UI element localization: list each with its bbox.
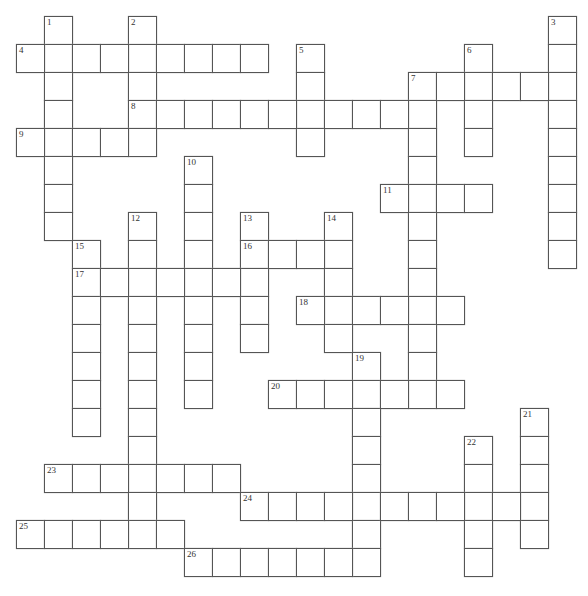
crossword-cell[interactable] bbox=[44, 44, 73, 73]
crossword-cell[interactable] bbox=[408, 128, 437, 157]
crossword-cell[interactable] bbox=[408, 296, 437, 325]
crossword-cell[interactable] bbox=[128, 44, 157, 73]
crossword-cell[interactable] bbox=[184, 464, 213, 493]
crossword-cell[interactable] bbox=[268, 492, 297, 521]
crossword-cell[interactable] bbox=[296, 380, 325, 409]
crossword-cell[interactable] bbox=[548, 72, 577, 101]
crossword-cell[interactable]: 7 bbox=[408, 72, 437, 101]
crossword-cell[interactable]: 2 bbox=[128, 16, 157, 45]
crossword-cell[interactable] bbox=[324, 492, 353, 521]
crossword-cell[interactable] bbox=[408, 268, 437, 297]
crossword-cell[interactable] bbox=[324, 100, 353, 129]
crossword-cell[interactable] bbox=[184, 100, 213, 129]
crossword-cell[interactable] bbox=[324, 380, 353, 409]
crossword-cell[interactable]: 5 bbox=[296, 44, 325, 73]
crossword-cell[interactable] bbox=[548, 156, 577, 185]
crossword-cell[interactable] bbox=[72, 324, 101, 353]
crossword-cell[interactable] bbox=[156, 44, 185, 73]
crossword-cell[interactable]: 23 bbox=[44, 464, 73, 493]
crossword-cell[interactable] bbox=[212, 44, 241, 73]
crossword-cell[interactable] bbox=[72, 128, 101, 157]
crossword-cell[interactable] bbox=[408, 156, 437, 185]
crossword-cell[interactable] bbox=[128, 408, 157, 437]
crossword-cell[interactable] bbox=[408, 240, 437, 269]
crossword-cell[interactable]: 15 bbox=[72, 240, 101, 269]
crossword-cell[interactable] bbox=[352, 436, 381, 465]
crossword-cell[interactable] bbox=[324, 240, 353, 269]
crossword-cell[interactable] bbox=[240, 296, 269, 325]
crossword-cell[interactable] bbox=[212, 464, 241, 493]
crossword-cell[interactable] bbox=[240, 324, 269, 353]
crossword-cell[interactable] bbox=[408, 352, 437, 381]
crossword-cell[interactable] bbox=[44, 128, 73, 157]
crossword-cell[interactable]: 3 bbox=[548, 16, 577, 45]
crossword-cell[interactable] bbox=[464, 72, 493, 101]
crossword-cell[interactable] bbox=[128, 240, 157, 269]
crossword-cell[interactable] bbox=[352, 380, 381, 409]
crossword-cell[interactable] bbox=[128, 492, 157, 521]
crossword-cell[interactable] bbox=[380, 100, 409, 129]
crossword-cell[interactable]: 11 bbox=[380, 184, 409, 213]
crossword-cell[interactable]: 10 bbox=[184, 156, 213, 185]
crossword-cell[interactable] bbox=[128, 436, 157, 465]
crossword-cell[interactable] bbox=[184, 240, 213, 269]
crossword-cell[interactable] bbox=[324, 268, 353, 297]
crossword-cell[interactable] bbox=[520, 72, 549, 101]
crossword-cell[interactable]: 19 bbox=[352, 352, 381, 381]
crossword-cell[interactable]: 22 bbox=[464, 436, 493, 465]
crossword-cell[interactable]: 20 bbox=[268, 380, 297, 409]
crossword-cell[interactable]: 4 bbox=[16, 44, 45, 73]
crossword-cell[interactable]: 6 bbox=[464, 44, 493, 73]
crossword-cell[interactable] bbox=[212, 548, 241, 577]
crossword-cell[interactable] bbox=[72, 296, 101, 325]
crossword-cell[interactable] bbox=[548, 128, 577, 157]
crossword-cell[interactable] bbox=[44, 184, 73, 213]
crossword-cell[interactable] bbox=[548, 212, 577, 241]
crossword-cell[interactable] bbox=[548, 184, 577, 213]
crossword-cell[interactable] bbox=[72, 520, 101, 549]
crossword-cell[interactable] bbox=[520, 436, 549, 465]
crossword-cell[interactable] bbox=[436, 380, 465, 409]
crossword-cell[interactable] bbox=[352, 520, 381, 549]
crossword-cell[interactable] bbox=[128, 464, 157, 493]
crossword-cell[interactable] bbox=[296, 240, 325, 269]
crossword-cell[interactable] bbox=[44, 156, 73, 185]
crossword-cell[interactable] bbox=[184, 212, 213, 241]
crossword-cell[interactable] bbox=[352, 548, 381, 577]
crossword-cell[interactable]: 9 bbox=[16, 128, 45, 157]
crossword-cell[interactable] bbox=[184, 352, 213, 381]
crossword-cell[interactable] bbox=[324, 296, 353, 325]
crossword-cell[interactable] bbox=[296, 128, 325, 157]
crossword-cell[interactable] bbox=[156, 520, 185, 549]
crossword-cell[interactable] bbox=[464, 520, 493, 549]
crossword-cell[interactable] bbox=[212, 268, 241, 297]
crossword-cell[interactable] bbox=[128, 128, 157, 157]
crossword-cell[interactable] bbox=[296, 548, 325, 577]
crossword-cell[interactable]: 14 bbox=[324, 212, 353, 241]
crossword-cell[interactable] bbox=[184, 44, 213, 73]
crossword-cell[interactable] bbox=[408, 184, 437, 213]
crossword-cell[interactable] bbox=[408, 492, 437, 521]
crossword-cell[interactable] bbox=[44, 100, 73, 129]
crossword-cell[interactable] bbox=[464, 100, 493, 129]
crossword-cell[interactable] bbox=[464, 548, 493, 577]
crossword-cell[interactable] bbox=[100, 520, 129, 549]
crossword-cell[interactable] bbox=[156, 464, 185, 493]
crossword-cell[interactable] bbox=[156, 268, 185, 297]
crossword-cell[interactable] bbox=[128, 324, 157, 353]
crossword-cell[interactable]: 16 bbox=[240, 240, 269, 269]
crossword-cell[interactable] bbox=[548, 240, 577, 269]
crossword-cell[interactable] bbox=[268, 548, 297, 577]
crossword-cell[interactable] bbox=[128, 352, 157, 381]
crossword-cell[interactable] bbox=[268, 100, 297, 129]
crossword-cell[interactable] bbox=[492, 492, 521, 521]
crossword-cell[interactable] bbox=[184, 324, 213, 353]
crossword-cell[interactable] bbox=[520, 520, 549, 549]
crossword-cell[interactable] bbox=[296, 72, 325, 101]
crossword-cell[interactable]: 13 bbox=[240, 212, 269, 241]
crossword-cell[interactable] bbox=[520, 464, 549, 493]
crossword-cell[interactable] bbox=[408, 212, 437, 241]
crossword-cell[interactable] bbox=[240, 548, 269, 577]
crossword-cell[interactable] bbox=[408, 100, 437, 129]
crossword-cell[interactable] bbox=[296, 100, 325, 129]
